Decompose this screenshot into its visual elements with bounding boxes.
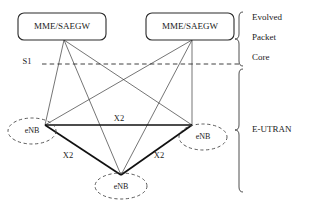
- enb-right-node[interactable]: eNB: [179, 124, 227, 150]
- x2-top-label: X2: [114, 113, 124, 123]
- mme-saegw-left-node[interactable]: MME/SAEGW: [18, 13, 106, 40]
- enb-bottom-label: eNB: [114, 182, 129, 191]
- s1-link-mmeleft-enbleft: [45, 40, 64, 125]
- s1-link-mmeleft-enbright: [64, 40, 192, 125]
- epc-label-line-1: Evolved: [252, 12, 282, 22]
- x2-left-label: X2: [63, 150, 73, 160]
- x2-right-label: X2: [154, 150, 164, 160]
- network-architecture-diagram: S1 MME/SAEGW MME/SAEGW eNB eNB eNB X2 X2…: [0, 0, 310, 204]
- mme-saegw-right-node[interactable]: MME/SAEGW: [146, 13, 234, 40]
- e-utran-label: E-UTRAN: [252, 124, 292, 134]
- enb-right-label: eNB: [196, 132, 211, 141]
- x2-link-enbleft-enbbottom: [45, 125, 121, 175]
- e-utran-brace: [235, 69, 243, 192]
- s1-interface-label: S1: [23, 56, 32, 66]
- enb-bottom-node[interactable]: eNB: [95, 173, 147, 199]
- epc-brace: [235, 12, 243, 66]
- enb-left-label: eNB: [25, 126, 40, 135]
- mme-saegw-right-label: MME/SAEGW: [162, 21, 219, 31]
- diagram-canvas: S1 MME/SAEGW MME/SAEGW eNB eNB eNB X2 X2…: [0, 0, 310, 204]
- epc-label-line-3: Core: [252, 52, 270, 62]
- enb-left-node[interactable]: eNB: [8, 118, 56, 144]
- epc-label-line-2: Packet: [252, 32, 276, 42]
- mme-saegw-left-label: MME/SAEGW: [34, 21, 91, 31]
